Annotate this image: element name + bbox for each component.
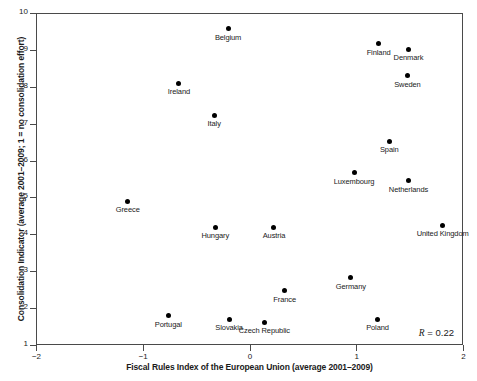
data-point-marker (387, 139, 392, 144)
data-point-label: Poland (366, 323, 389, 332)
y-tick-label: 4 (24, 228, 28, 237)
data-point-label: Italy (208, 119, 221, 128)
data-point-label: Netherlands (389, 185, 428, 194)
data-point-marker (352, 170, 357, 175)
data-point-marker (212, 113, 217, 118)
data-point-marker (166, 313, 171, 318)
data-point-marker (227, 317, 232, 322)
data-point-label: France (273, 295, 296, 304)
y-tick-label: 1 (24, 339, 28, 348)
x-tick-label: 1 (355, 352, 359, 361)
data-point-label: Ireland (168, 87, 190, 96)
data-point-label: Finland (367, 48, 391, 57)
x-axis-title: Fiscal Rules Index of the European Union… (36, 362, 463, 372)
x-tick-label: −2 (32, 352, 41, 361)
data-point-marker (176, 81, 181, 86)
y-tick-label: 7 (24, 118, 28, 127)
data-point-label: Greece (116, 205, 140, 214)
data-point-label: Denmark (394, 53, 424, 62)
y-tick-label: 3 (24, 265, 28, 274)
data-point-marker (440, 223, 445, 228)
x-tick-0: 0 (250, 345, 251, 351)
data-point-marker (375, 317, 380, 322)
y-tick-label: 9 (24, 44, 28, 53)
data-point-marker (213, 225, 218, 230)
data-point-marker (376, 41, 381, 46)
data-point-label: Luxembourg (334, 177, 375, 186)
x-tick-2: 2 (463, 345, 464, 351)
x-tick-label: −1 (139, 352, 148, 361)
data-point-label: Portugal (155, 320, 182, 329)
data-point-marker (405, 73, 410, 78)
y-tick-label: 10 (19, 7, 28, 16)
data-point-label: Sweden (394, 80, 421, 89)
data-point-marker (226, 26, 231, 31)
data-point-label: Spain (380, 145, 399, 154)
data-point-marker (406, 178, 411, 183)
data-point-label: United Kingdom (417, 229, 469, 238)
correlation-operator: = (425, 327, 436, 338)
data-point-label: Germany (336, 282, 366, 291)
x-tick-label: 0 (248, 352, 252, 361)
x-tick-1: 1 (356, 345, 357, 351)
data-point-marker (348, 275, 353, 280)
x-tick-label: 2 (461, 352, 465, 361)
data-point-marker (271, 225, 276, 230)
x-tick-−2: −2 (36, 345, 37, 351)
data-point-marker (282, 288, 287, 293)
correlation-annotation: R = 0.22 (419, 327, 454, 338)
data-point-marker (406, 47, 411, 52)
data-point-label: Hungary (201, 231, 229, 240)
data-point-label: Czech Republic (239, 326, 290, 335)
y-tick-label: 8 (24, 81, 28, 90)
scatter-plot-figure: Consolidation Indicator (average 2001–20… (0, 0, 477, 381)
x-tick-−1: −1 (143, 345, 144, 351)
data-point-label: Belgium (215, 33, 241, 42)
correlation-value: 0.22 (436, 327, 455, 338)
y-tick-label: 5 (24, 191, 28, 200)
data-point-marker (262, 320, 267, 325)
y-tick-label: 6 (24, 155, 28, 164)
y-tick-label: 2 (24, 302, 28, 311)
data-point-marker (125, 199, 130, 204)
data-point-label: Austria (263, 231, 286, 240)
plot-area: BelgiumFinlandDenmarkSwedenIrelandItalyS… (36, 13, 463, 345)
